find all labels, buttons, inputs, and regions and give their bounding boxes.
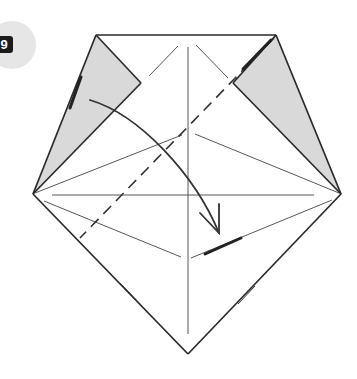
fold-arrow <box>90 100 219 233</box>
lower-right-edge-mark <box>238 286 255 304</box>
right-lower-edge <box>188 194 341 354</box>
origami-step-diagram: 9 <box>0 0 357 379</box>
center-edge-mark <box>205 238 241 254</box>
lower-left-diagonal-crease <box>44 201 181 257</box>
lower-left-edge-mark <box>120 283 142 306</box>
top-left-inner-crease <box>149 46 178 76</box>
right-shaded-flap <box>233 35 341 194</box>
lower-edge-double-marks <box>120 283 255 306</box>
top-right-inner-crease <box>196 45 228 78</box>
left-lower-edge <box>33 194 188 354</box>
step-number: 9 <box>0 37 7 52</box>
step-badge: 9 <box>0 21 36 69</box>
fold-arrow-head <box>200 204 219 233</box>
